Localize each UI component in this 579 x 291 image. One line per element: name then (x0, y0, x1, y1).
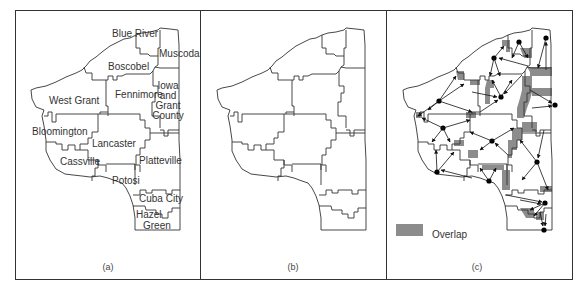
caption-c: (c) (472, 262, 483, 272)
caption-a: (a) (103, 262, 114, 272)
label-cuba-city: Cuba City (139, 193, 183, 204)
region-labels: Blue River Muscoda Boscobel Fennimore Io… (32, 28, 200, 231)
center-dot (552, 102, 557, 107)
label-fennimore: Fennimore (115, 89, 163, 100)
label-cassville: Cassville (60, 156, 100, 167)
overlap-areas (416, 40, 552, 220)
district-map (217, 28, 366, 230)
label-platteville: Platteville (139, 155, 182, 166)
label-potosi: Potosi (112, 175, 140, 186)
label-boscobel: Boscobel (108, 61, 149, 72)
label-blue-river: Blue River (112, 28, 159, 39)
panel-c: Overlap (c) (396, 28, 558, 272)
legend-overlap-label: Overlap (432, 229, 467, 240)
center-dot (541, 227, 546, 232)
label-lancaster: Lancaster (92, 138, 137, 149)
label-muscoda: Muscoda (159, 48, 200, 59)
label-iowa-grant-4: County (152, 110, 184, 121)
label-hazel-green-1: Hazel (136, 209, 162, 220)
panel-a: Blue River Muscoda Boscobel Fennimore Io… (31, 28, 200, 272)
label-bloomington: Bloomington (32, 126, 88, 137)
legend: Overlap (396, 224, 467, 240)
overlap-swatch (396, 224, 423, 236)
caption-b: (b) (288, 262, 299, 272)
label-hazel-green-2: Green (143, 220, 171, 231)
figure: Blue River Muscoda Boscobel Fennimore Io… (0, 0, 579, 291)
label-west-grant: West Grant (49, 95, 100, 106)
panel-b: (b) (217, 28, 366, 272)
